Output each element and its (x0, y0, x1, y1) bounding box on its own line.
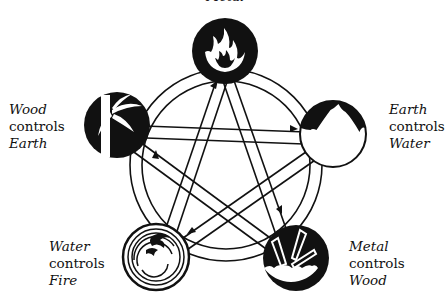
water-controls-fire-label: Water controls Fire (49, 238, 105, 289)
fire-circle (192, 18, 258, 84)
wood-controls-earth-label: Wood controls Earth (9, 101, 65, 152)
earth-circle (300, 101, 366, 167)
earth-controls-water-label: Earth controls Water (389, 101, 445, 152)
water-circle (123, 224, 189, 290)
wood-circle (84, 92, 150, 158)
metal-circle (263, 225, 329, 291)
five-elements-diagram: Metal (0, 0, 447, 293)
metal-controls-wood-label: Metal controls Wood (349, 238, 405, 289)
